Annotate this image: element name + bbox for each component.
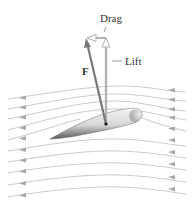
arrow-left-icon bbox=[19, 96, 26, 101]
arrow-left-icon bbox=[168, 98, 175, 103]
force-label: F bbox=[82, 66, 89, 77]
arrow-left-icon bbox=[168, 150, 175, 155]
arrow-left-icon bbox=[168, 162, 175, 167]
arrow-left-icon bbox=[168, 187, 175, 192]
lift-arrowhead-icon bbox=[102, 38, 110, 47]
streamline bbox=[8, 151, 186, 162]
streamline bbox=[8, 187, 186, 197]
streamline bbox=[8, 139, 186, 151]
arrow-left-icon bbox=[19, 148, 26, 153]
drag-label: Drag bbox=[100, 13, 122, 24]
arrow-left-icon bbox=[168, 175, 175, 180]
airfoil-nose-shading bbox=[129, 110, 141, 123]
streamline bbox=[142, 118, 186, 131]
arrow-left-icon bbox=[19, 105, 26, 110]
arrow-left-icon bbox=[168, 116, 175, 121]
arrow-left-icon bbox=[19, 193, 26, 198]
arrow-left-icon bbox=[168, 88, 175, 93]
arrow-left-icon bbox=[168, 138, 175, 143]
drag-vector bbox=[87, 35, 106, 42]
streamline bbox=[8, 175, 186, 185]
arrow-left-icon bbox=[19, 169, 26, 174]
streamlines bbox=[8, 86, 186, 197]
airfoil-diagram bbox=[0, 0, 194, 211]
drag-leader-line bbox=[104, 27, 106, 32]
arrow-left-icon bbox=[19, 181, 26, 186]
streamline-arrowheads bbox=[19, 88, 175, 198]
origin-point bbox=[104, 122, 107, 125]
streamline bbox=[8, 163, 186, 173]
lift-label: Lift bbox=[125, 56, 142, 67]
arrow-left-icon bbox=[19, 158, 26, 163]
arrow-left-icon bbox=[168, 107, 175, 112]
drag-arrowhead-icon bbox=[87, 35, 96, 42]
